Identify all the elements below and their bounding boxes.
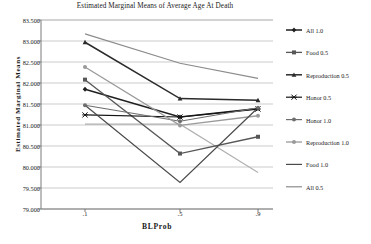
legend-item-label: Reproduction 0.5	[306, 71, 349, 78]
legend-item-label: Food 1.0	[306, 161, 328, 168]
x-tick-label: .5	[178, 210, 183, 217]
legend-item-label: All 0.5	[306, 183, 323, 190]
chart-figure: Estimated Marginal Means of Average Age …	[0, 0, 371, 244]
x-tick-label: .1	[83, 210, 88, 217]
x-tick-label: .9	[256, 210, 261, 217]
x-axis-label: BLProb	[41, 222, 273, 231]
legend-item-label: All 1.0	[306, 27, 323, 34]
legend-item-label: Reproduction 1.0	[306, 139, 349, 146]
legend-item-label: Honor 0.5	[306, 94, 331, 101]
legend-item-label: Food 0.5	[306, 49, 328, 56]
legend-item-label: Honor 1.0	[306, 116, 331, 123]
